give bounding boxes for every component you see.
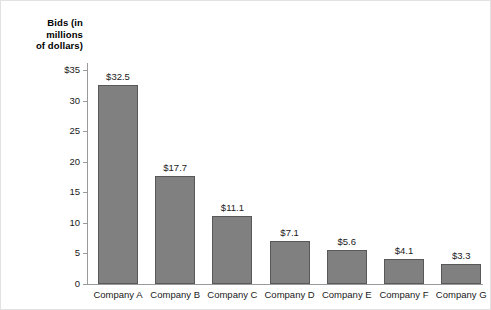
y-tick-label: 20 [69, 156, 80, 167]
bar-chart: Bids (inmillionsof dollars) 051015202530… [0, 0, 491, 310]
bar [212, 216, 252, 284]
x-axis-label: Company B [150, 289, 200, 300]
bar-group: $5.6 [327, 228, 367, 284]
bar [441, 264, 481, 284]
bar-group: $32.5 [98, 63, 138, 284]
y-tick-label: 15 [69, 186, 80, 197]
y-axis-title: Bids (inmillionsof dollars) [9, 17, 83, 52]
y-axis-title-line: of dollars) [9, 40, 83, 52]
y-tick-label: 5 [75, 247, 80, 258]
bar [327, 250, 367, 284]
bar [98, 85, 138, 284]
x-axis-label: Company C [207, 289, 257, 300]
plot-area: $32.5$17.7$11.1$7.1$5.6$4.1$3.3 [87, 61, 483, 284]
bar-value-label: $7.1 [280, 227, 299, 238]
y-tick-label: 10 [69, 217, 80, 228]
y-tick-mark [83, 284, 88, 285]
bar-value-label: $4.1 [395, 245, 414, 256]
x-axis-line [87, 284, 483, 285]
x-axis-label: Company A [93, 289, 142, 300]
y-axis-title-line: Bids (in [9, 17, 83, 29]
y-tick-label: 0 [75, 278, 80, 289]
bar-value-label: $5.6 [338, 236, 357, 247]
x-axis-label: Company D [265, 289, 315, 300]
bar-group: $4.1 [384, 237, 424, 284]
x-axis-label: Company F [379, 289, 428, 300]
x-axis-label: Company E [322, 289, 372, 300]
y-tick-label: 25 [69, 125, 80, 136]
bar-value-label: $3.3 [452, 250, 471, 261]
bar [155, 176, 195, 284]
bar-group: $3.3 [441, 242, 481, 284]
y-axis-title-line: millions [9, 29, 83, 41]
bar-value-label: $32.5 [106, 71, 130, 82]
bar [270, 241, 310, 284]
bar-group: $11.1 [212, 194, 252, 284]
bar-value-label: $11.1 [221, 202, 244, 213]
bar-group: $7.1 [270, 219, 310, 284]
x-axis-label: Company G [436, 289, 487, 300]
bar-group: $17.7 [155, 154, 195, 284]
y-tick-label: $35 [64, 64, 80, 75]
y-tick-label: 30 [69, 95, 80, 106]
bar-value-label: $17.7 [163, 162, 187, 173]
bar [384, 259, 424, 284]
